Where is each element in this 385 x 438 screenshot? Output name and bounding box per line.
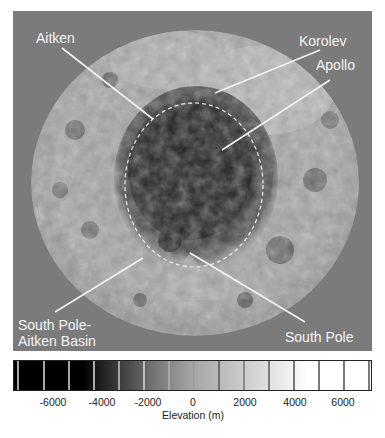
tick-label: -2000	[135, 396, 162, 408]
elevation-map: Aitken Korolev Apollo South Pole- Aitken…	[13, 11, 372, 351]
tick-label: 2000	[233, 396, 256, 408]
label-spa-line2: Aitken Basin	[18, 333, 96, 349]
tick-label: 6000	[331, 396, 354, 408]
tick-label: 0	[190, 396, 196, 408]
elevation-colorbar	[13, 360, 372, 391]
label-apollo: Apollo	[316, 57, 355, 73]
tick-label: -4000	[89, 396, 116, 408]
label-aitken: Aitken	[36, 30, 75, 46]
tick-label: 4000	[283, 396, 306, 408]
label-korolev: Korolev	[299, 33, 346, 49]
label-spa-line1: South Pole-	[18, 317, 91, 333]
tick-label: -6000	[40, 396, 67, 408]
label-south-pole: South Pole	[285, 329, 354, 345]
colorbar-title: Elevation (m)	[162, 409, 224, 421]
